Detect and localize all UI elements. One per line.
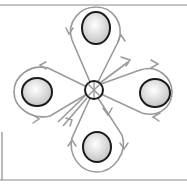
flow-diagram xyxy=(0,0,187,186)
ball-left xyxy=(22,78,52,106)
arrow-icon xyxy=(66,28,73,34)
ball-right xyxy=(140,79,170,107)
arrow-icon xyxy=(118,35,125,41)
ball-top xyxy=(82,12,110,44)
center-node xyxy=(85,81,103,99)
ball-bottom xyxy=(83,132,111,162)
arrow-icon xyxy=(151,60,158,68)
